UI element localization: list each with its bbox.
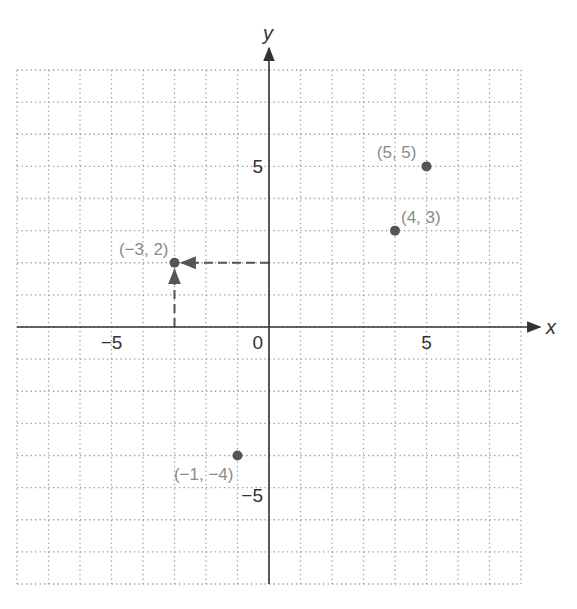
point-label: (4, 3) — [401, 208, 441, 227]
point-label: (−3, 2) — [119, 240, 169, 259]
x-axis-label: x — [545, 316, 557, 338]
y-axis-label: y — [261, 22, 274, 44]
point-label: (5, 5) — [377, 143, 417, 162]
data-point — [422, 161, 432, 171]
y-tick-label: −5 — [241, 485, 263, 506]
point-label: (−1, −4) — [174, 465, 234, 484]
axes: xy — [17, 22, 557, 584]
data-point — [390, 226, 400, 236]
data-points: (5, 5)(4, 3)(−3, 2)(−1, −4) — [119, 143, 441, 483]
x-tick-label: −5 — [101, 332, 123, 353]
data-point — [170, 258, 180, 268]
coordinate-plane: xy −5055−5 (5, 5)(4, 3)(−3, 2)(−1, −4) — [0, 0, 577, 609]
x-tick-label: 0 — [252, 332, 263, 353]
data-point — [233, 451, 243, 461]
x-tick-label: 5 — [421, 332, 432, 353]
y-tick-label: 5 — [252, 156, 263, 177]
tick-labels: −5055−5 — [101, 156, 432, 505]
